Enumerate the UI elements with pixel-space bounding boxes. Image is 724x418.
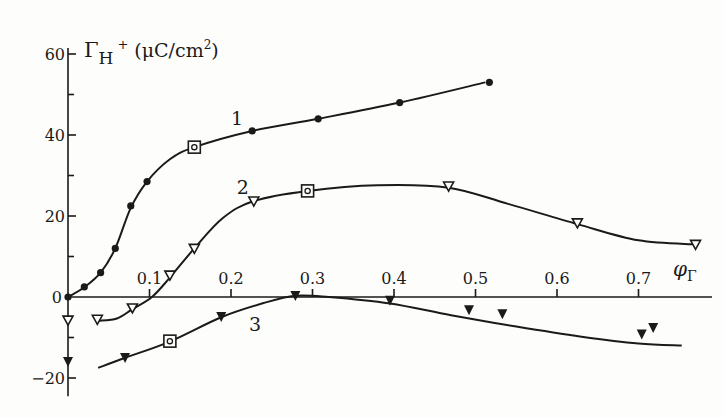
curve-label-1: 1: [231, 107, 243, 129]
data-point-series-3: [120, 353, 130, 363]
markers: [63, 79, 701, 367]
data-point-series-1: [81, 283, 88, 290]
x-tick-label: 0.1: [137, 269, 162, 288]
data-point-series-1: [97, 269, 104, 276]
data-point-series-2: [165, 271, 175, 280]
data-point-series-3: [648, 323, 658, 333]
highlighted-point-square: [188, 141, 200, 153]
data-point-series-3: [464, 305, 474, 315]
isolated-point-series-3: [63, 357, 73, 367]
curve-3: [98, 295, 682, 368]
x-tick-label: 0.5: [463, 269, 488, 288]
data-point-series-1: [127, 202, 134, 209]
data-point-series-1: [396, 99, 403, 106]
data-point-series-1: [486, 79, 493, 86]
curve-1: [68, 82, 485, 297]
y-tick-label: −20: [31, 369, 65, 388]
chart: −2020406000.10.20.30.40.50.60.7 123 ΓH+(…: [0, 0, 724, 418]
y-tick-label: 20: [45, 207, 65, 226]
data-point-series-3: [497, 309, 507, 319]
highlighted-point-square: [164, 335, 176, 347]
x-tick-label: 0.2: [218, 269, 243, 288]
data-point-series-1: [249, 127, 256, 134]
x-tick-label: 0.3: [300, 269, 325, 288]
highlighted-point-square: [302, 185, 314, 197]
curve-2: [98, 185, 695, 321]
curves: [68, 82, 696, 368]
origin-label: 0: [52, 288, 62, 307]
data-point-series-3: [637, 329, 647, 339]
curve-label-2: 2: [237, 176, 249, 198]
x-axis-title: φΓ: [673, 257, 697, 284]
curve-label-3: 3: [249, 313, 261, 335]
y-axis-title: ΓH+(μC/cm2): [84, 37, 219, 68]
y-tick-label: 40: [45, 126, 65, 145]
ticks: −2020406000.10.20.30.40.50.60.7: [31, 45, 651, 388]
data-point-series-1: [112, 245, 119, 252]
data-point-series-1: [143, 178, 150, 185]
isolated-point-series-2: [63, 316, 73, 325]
labels: 123: [231, 107, 261, 336]
x-tick-label: 0.6: [544, 269, 569, 288]
x-tick-label: 0.4: [381, 269, 406, 288]
data-point-series-1: [64, 293, 71, 300]
x-tick-label: 0.7: [626, 269, 651, 288]
data-point-series-3: [216, 312, 226, 322]
data-point-series-1: [315, 115, 322, 122]
y-tick-label: 60: [45, 45, 65, 64]
